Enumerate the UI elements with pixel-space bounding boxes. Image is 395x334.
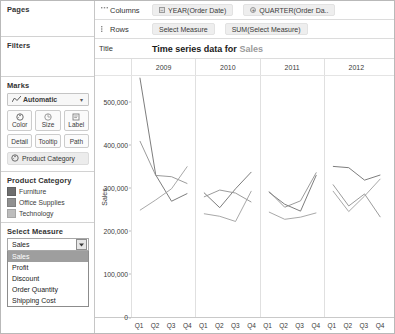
chart-panel-2011	[260, 76, 324, 317]
line-series-furniture[interactable]	[140, 78, 187, 202]
label-button[interactable]: Label	[64, 110, 89, 131]
marks-buttons-row-1: Color Size Label	[7, 110, 89, 131]
option-order-quantity[interactable]: Order Quantity	[8, 284, 88, 295]
column-header-2010[interactable]: 2010	[195, 59, 259, 75]
option-shipping-cost[interactable]: Shipping Cost	[8, 295, 88, 306]
x-tick-label[interactable]: Q2	[276, 318, 292, 333]
rows-icon	[99, 26, 110, 33]
minus-box-icon[interactable]: −	[159, 7, 165, 13]
legend-item-label: Office Supplies	[19, 199, 65, 206]
x-tick-label[interactable]: Q4	[243, 318, 259, 333]
x-tick-label[interactable]: Q3	[163, 318, 179, 333]
legend-item-label: Technology	[19, 210, 53, 217]
line-chart-icon	[11, 96, 22, 103]
mark-type-selector[interactable]: Automatic ▾	[7, 93, 89, 106]
x-tick-label[interactable]: Q3	[227, 318, 243, 333]
x-tick-label[interactable]: Q4	[308, 318, 324, 333]
tooltip-button-label: Tooltip	[39, 138, 58, 145]
chevron-down-icon[interactable]: ▾	[78, 96, 85, 103]
legend-item-label: Furniture	[19, 188, 46, 195]
worksheet-area: Columns − YEAR(Order Date) + QUARTER(Ord…	[95, 1, 394, 333]
legend-swatch	[7, 198, 16, 207]
x-tick-label[interactable]: Q1	[260, 318, 276, 333]
detail-button[interactable]: Detail	[7, 134, 32, 148]
marks-buttons-row-2: Detail Tooltip Path	[7, 134, 89, 148]
option-profit[interactable]: Profit	[8, 262, 88, 273]
title-measure: Sales	[239, 44, 263, 54]
columns-shelf[interactable]: Columns − YEAR(Order Date) + QUARTER(Ord…	[95, 1, 394, 20]
marks-pill-product-category[interactable]: Product Category	[7, 152, 89, 165]
y-axis[interactable]: Sales 0100,000200,000300,000400,000500,0…	[95, 76, 131, 317]
pages-card-title: Pages	[7, 5, 89, 14]
color-palette-icon	[16, 113, 24, 121]
left-sidebar: Pages Filters Marks Automatic ▾ Color	[1, 1, 95, 333]
marks-card: Marks Automatic ▾ Color	[1, 77, 94, 172]
tooltip-button[interactable]: Tooltip	[35, 134, 60, 148]
y-tick-label: 500,000	[103, 98, 128, 105]
pill-label: YEAR(Order Date)	[168, 7, 226, 14]
rows-shelf[interactable]: Rows Select Measure SUM(Select Measure)	[95, 20, 394, 39]
tableau-workbook-window: Pages Filters Marks Automatic ▾ Color	[0, 0, 395, 334]
x-tick-label[interactable]: Q3	[356, 318, 372, 333]
x-tick-label[interactable]: Q2	[211, 318, 227, 333]
rows-shelf-label: Rows	[110, 25, 152, 34]
pill-label: SUM(Select Measure)	[232, 26, 301, 33]
y-tick-label: 0	[124, 314, 128, 321]
line-series-technology[interactable]	[204, 191, 251, 222]
pages-card: Pages	[1, 1, 94, 37]
option-discount[interactable]: Discount	[8, 273, 88, 284]
legend-item-furniture[interactable]: Furniture	[7, 187, 89, 196]
path-button-label: Path	[70, 138, 83, 145]
pill-select-measure[interactable]: Select Measure	[152, 23, 215, 35]
pill-quarter-order-date[interactable]: + QUARTER(Order Da..	[243, 4, 335, 16]
x-axis-panel-2011: Q1 Q2 Q3 Q4	[260, 318, 324, 333]
column-header-2009[interactable]: 2009	[131, 59, 195, 75]
y-tick-label: 100,000	[103, 270, 128, 277]
line-series-furniture[interactable]	[268, 175, 315, 211]
label-tag-icon	[72, 113, 80, 121]
select-measure-title: Select Measure	[7, 227, 89, 236]
legend-swatch	[7, 209, 16, 218]
column-header-2011[interactable]: 2011	[260, 59, 324, 75]
option-sales[interactable]: Sales	[8, 251, 88, 262]
color-button[interactable]: Color	[7, 110, 32, 131]
line-series-technology[interactable]	[268, 212, 315, 219]
filters-card: Filters	[1, 37, 94, 77]
title-shelf: Title Time series data for Sales	[95, 39, 394, 59]
x-tick-label[interactable]: Q3	[292, 318, 308, 333]
plus-round-icon[interactable]: +	[250, 7, 256, 13]
select-measure-dropdown[interactable]: Sales	[7, 238, 89, 251]
chart-panel-2010	[195, 76, 259, 317]
pill-sum-select-measure[interactable]: SUM(Select Measure)	[225, 23, 308, 35]
path-button[interactable]: Path	[64, 134, 89, 148]
chevron-down-icon[interactable]	[76, 239, 87, 250]
line-series-furniture[interactable]	[204, 172, 251, 208]
line-series-office-supplies[interactable]	[204, 190, 251, 202]
x-tick-label[interactable]: Q4	[372, 318, 388, 333]
worksheet-title[interactable]: Time series data for Sales	[152, 44, 263, 54]
size-circle-icon	[44, 113, 52, 121]
x-tick-label[interactable]: Q1	[131, 318, 147, 333]
x-tick-label[interactable]: Q1	[324, 318, 340, 333]
x-tick-label[interactable]: Q1	[195, 318, 211, 333]
select-measure-options-list[interactable]: Sales Profit Discount Order Quantity Shi…	[7, 251, 89, 307]
x-tick-label[interactable]: Q2	[340, 318, 356, 333]
pill-year-order-date[interactable]: − YEAR(Order Date)	[152, 4, 233, 16]
color-button-label: Color	[12, 122, 28, 129]
chart-panel-2012	[324, 76, 388, 317]
x-tick-label[interactable]: Q2	[147, 318, 163, 333]
legend-item-technology[interactable]: Technology	[7, 209, 89, 218]
x-axis-panel-2010: Q1 Q2 Q3 Q4	[195, 318, 259, 333]
line-series-furniture[interactable]	[333, 166, 380, 180]
legend-item-office-supplies[interactable]: Office Supplies	[7, 198, 89, 207]
x-axis-panel-2009: Q1 Q2 Q3 Q4	[131, 318, 195, 333]
x-tick-label[interactable]: Q4	[179, 318, 195, 333]
column-header-2012[interactable]: 2012	[324, 59, 388, 75]
legend-title: Product Category	[7, 176, 89, 185]
column-headers: 2009 2010 2011 2012	[95, 59, 394, 76]
size-button[interactable]: Size	[35, 110, 60, 131]
line-series-office-supplies[interactable]	[268, 172, 315, 207]
visualization-canvas: 2009 2010 2011 2012 Sales 0100,000200,00…	[95, 59, 394, 333]
select-measure-card: Select Measure Sales Sales Profit Discou…	[1, 223, 94, 313]
marks-pill-label: Product Category	[22, 155, 75, 162]
